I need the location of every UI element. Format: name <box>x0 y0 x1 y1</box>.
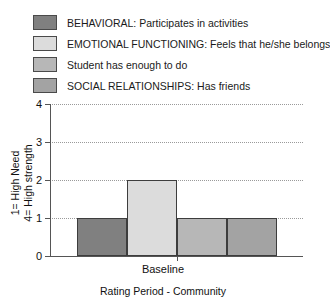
bar-series-2 <box>127 180 177 256</box>
y-axis-title: 1= High Need 4= High strength <box>9 128 35 238</box>
y-tick-label-4: 4 <box>28 99 42 110</box>
x-axis-tick-label: Baseline <box>0 263 326 275</box>
bar-series-4 <box>227 218 277 256</box>
y-axis-title-line-2: 4= High strength <box>22 128 132 238</box>
y-tick-label-0: 0 <box>28 251 42 262</box>
x-axis-tick-mark <box>177 256 178 261</box>
x-axis-title: Rating Period - Community <box>0 285 326 297</box>
bar-series-3 <box>177 218 227 256</box>
